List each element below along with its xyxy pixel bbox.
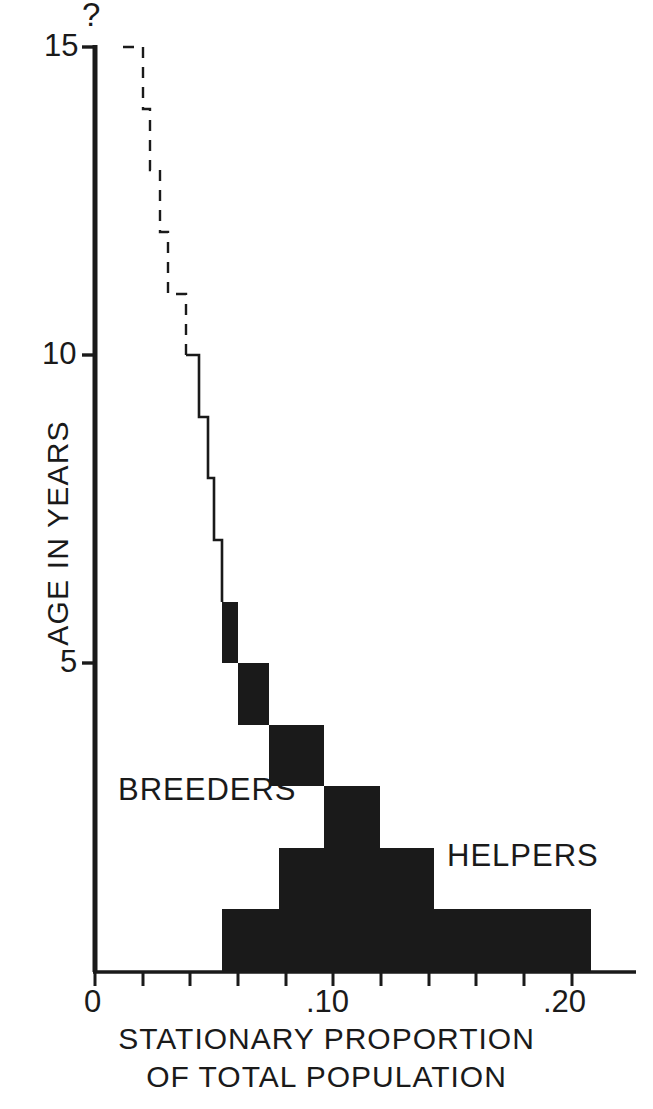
y-axis-tick-label-10: 10 xyxy=(42,336,76,372)
region-label-helpers: HELPERS xyxy=(447,838,599,874)
population-step-line-solid xyxy=(186,355,222,602)
x-axis-title: STATIONARY PROPORTION OF TOTAL POPULATIO… xyxy=(0,1020,653,1096)
x-axis-tick-label-point10: .10 xyxy=(306,984,349,1020)
chart-plot-area xyxy=(0,0,653,1109)
x-axis-title-line-1: STATIONARY PROPORTION xyxy=(118,1022,535,1055)
population-step-line-dashed xyxy=(119,47,186,355)
y-axis-tick-label-15: 15 xyxy=(44,28,78,64)
x-axis-title-line-2: OF TOTAL POPULATION xyxy=(0,1058,653,1096)
uncertainty-question-mark: ? xyxy=(82,0,100,34)
region-label-breeders: BREEDERS xyxy=(118,772,297,808)
x-axis-tick-label-point20: .20 xyxy=(543,984,586,1020)
x-axis-tick-label-0: 0 xyxy=(84,984,101,1020)
age-structure-figure: ? 15 10 5 0 .10 .20 AGE IN YEARS STATION… xyxy=(0,0,653,1109)
y-axis-title: AGE IN YEARS xyxy=(41,383,75,683)
